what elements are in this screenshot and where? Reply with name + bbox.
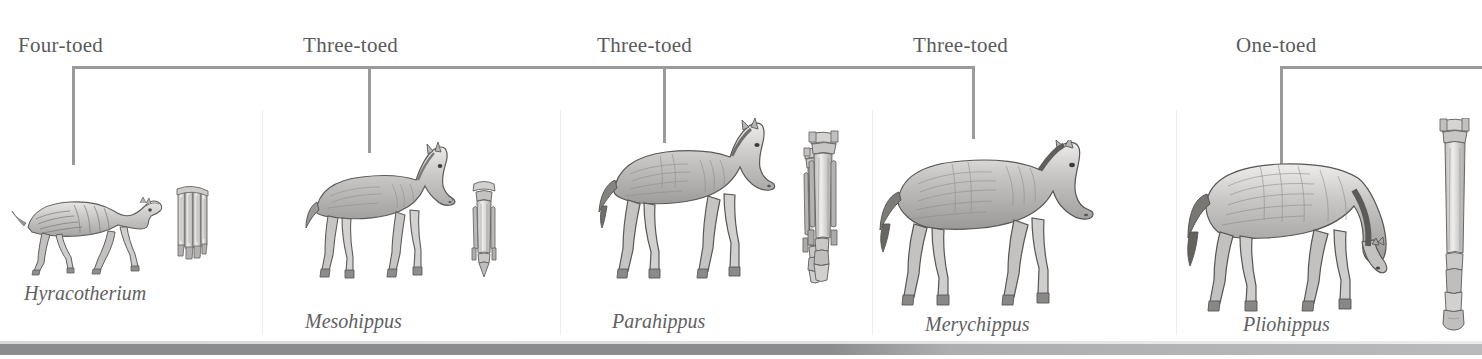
species-label-pliohippus: Pliohippus <box>1243 313 1330 336</box>
bracket-rule-right <box>1280 66 1482 69</box>
toe-label-one-toed: One-toed <box>1236 33 1317 58</box>
bracket-tick-1 <box>72 66 75 165</box>
foot-bone-one-toed-pliohippus <box>1432 118 1478 338</box>
figure-merychippus <box>878 140 1123 320</box>
figure-mesohippus <box>300 140 515 300</box>
bracket-tick-4 <box>972 66 975 139</box>
panel-divider-4 <box>1176 110 1177 335</box>
toe-label-three-toed-1: Three-toed <box>303 33 398 58</box>
toe-label-four-toed: Four-toed <box>18 33 103 58</box>
foot-bone-three-toed-mesohippus <box>472 182 496 278</box>
toe-label-three-toed-3: Three-toed <box>913 33 1008 58</box>
toe-label-three-toed-2: Three-toed <box>597 33 692 58</box>
timeline-bar <box>0 344 1482 355</box>
species-label-mesohippus: Mesohippus <box>305 310 402 333</box>
species-label-merychippus: Merychippus <box>925 313 1029 336</box>
figure-pliohippus <box>1186 150 1416 320</box>
panel-divider-3 <box>872 110 873 335</box>
species-label-parahippus: Parahippus <box>612 310 705 333</box>
foot-bone-four-toed <box>177 186 208 259</box>
horse-evolution-diagram: Four-toed Three-toed Three-toed Three-to… <box>0 0 1482 359</box>
figure-hyracotherium <box>8 175 218 285</box>
species-label-hyracotherium: Hyracotherium <box>24 282 146 305</box>
panel-divider-1 <box>262 110 263 335</box>
bracket-rule-left <box>72 66 975 69</box>
foot-bone-three-toed-merychippus <box>800 130 850 290</box>
panel-divider-2 <box>560 110 561 335</box>
